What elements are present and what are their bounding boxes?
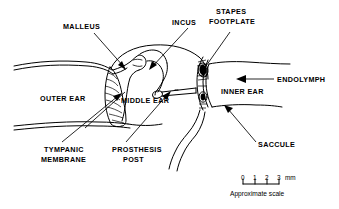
scale-caption: Approximate scale [230,190,285,198]
inner-ear-chamber [206,62,290,107]
leader-endolymph [236,75,274,83]
label-saccule: SACCULE [258,140,295,149]
scale-unit-label: mm [285,174,296,181]
label-tympanic-membrane-line2: MEMBRANE [41,155,86,164]
label-prosthesis-post-line1: PROSTHESIS [112,145,162,154]
label-tympanic-membrane-line1: TYMPANIC [44,145,84,154]
label-malleus: MALLEUS [63,22,100,31]
ear-canal-upper-wall [14,61,113,74]
leader-incus [149,28,188,70]
label-stapes-footplate-line1: STAPES [216,7,246,16]
figure-canvas: MALLEUS INCUS STAPES FOOTPLATE ENDOLYMPH… [0,0,339,209]
vestibular-duct-curves [169,110,205,171]
leader-stapes-footplate [206,32,230,66]
label-middle-ear: MIDDLE EAR [121,96,170,105]
label-outer-ear: OUTER EAR [40,94,86,103]
label-inner-ear: INNER EAR [221,87,264,96]
label-incus: INCUS [172,18,196,27]
label-stapes-footplate-line2: FOOTPLATE [209,17,255,26]
label-prosthesis-post-line2: POST [123,155,144,164]
leader-saccule [224,105,256,142]
label-endolymph: ENDOLYMPH [277,75,325,84]
scale-bar: 0 1 2 3 mm Approximate scale [230,174,296,198]
ear-anatomy-diagram: MALLEUS INCUS STAPES FOOTPLATE ENDOLYMPH… [0,0,339,209]
